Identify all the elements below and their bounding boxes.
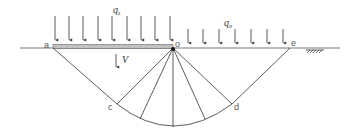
label-q-surcharge: qo — [224, 17, 232, 29]
ground-hatch-icon — [306, 50, 324, 53]
footing-load-arrows — [55, 16, 170, 40]
failure-mechanism-diagram: qs qo V a o e c d — [0, 0, 345, 139]
label-point-o: o — [175, 39, 180, 49]
label-point-d: d — [234, 102, 239, 112]
label-v: V — [122, 54, 130, 65]
label-q-footing: qs — [113, 4, 121, 16]
label-point-a: a — [44, 40, 49, 50]
label-point-c: c — [108, 102, 113, 112]
surcharge-load-arrows — [188, 29, 283, 43]
failure-surface — [53, 48, 290, 126]
label-point-e: e — [291, 38, 296, 48]
